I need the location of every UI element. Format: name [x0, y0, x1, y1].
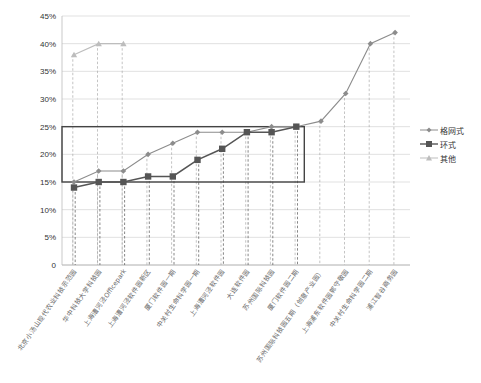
diamond-marker — [269, 124, 275, 130]
square-marker — [71, 184, 77, 190]
y-tick-label: 5% — [44, 233, 56, 242]
y-tick-label: 40% — [40, 40, 56, 49]
y-tick-label: 45% — [40, 12, 56, 21]
legend: 格网式 环式 其他 — [420, 123, 464, 165]
x-tick-label: 上海漕河泾软件园新区 — [105, 267, 153, 330]
series-line-ring — [74, 127, 296, 188]
diamond-marker — [71, 179, 77, 185]
square-marker — [244, 129, 250, 135]
x-tick-label: 中关村生命科学园二期 — [328, 267, 376, 330]
diamond-marker — [195, 129, 201, 135]
diamond-marker — [170, 140, 176, 146]
y-tick-label: 35% — [40, 67, 56, 76]
square-marker — [145, 173, 151, 179]
square-marker — [170, 173, 176, 179]
legend-label: 其他 — [440, 153, 456, 164]
diamond-marker — [96, 168, 102, 174]
square-marker-icon — [420, 139, 438, 149]
diamond-marker — [219, 129, 225, 135]
legend-label: 格网式 — [440, 125, 464, 136]
square-marker — [293, 123, 299, 129]
diamond-marker — [392, 30, 398, 36]
triangle-marker — [71, 52, 77, 58]
x-tick-label: 上海浦东软件园郭守敬园 — [299, 267, 351, 335]
diamond-marker — [368, 41, 374, 47]
square-marker — [194, 157, 200, 163]
square-marker — [219, 146, 225, 152]
square-marker — [96, 179, 102, 185]
y-tick-label: 0 — [52, 261, 57, 270]
y-tick-label: 25% — [40, 123, 56, 132]
legend-item-ring: 环式 — [420, 137, 464, 151]
legend-label: 环式 — [440, 139, 456, 150]
y-tick-label: 20% — [40, 150, 56, 159]
y-tick-label: 30% — [40, 95, 56, 104]
square-marker — [120, 179, 126, 185]
legend-item-other: 其他 — [420, 151, 464, 165]
x-tick-label: 中关村生命科学园一期 — [155, 267, 203, 330]
x-tick-label: 大连软件园 — [224, 267, 251, 301]
y-tick-label: 10% — [40, 206, 56, 215]
line-chart: 05%10%15%20%25%30%35%40%45%北京小汤山现代农业科技示范… — [0, 0, 481, 383]
y-tick-label: 15% — [40, 178, 56, 187]
legend-item-grid: 格网式 — [420, 123, 464, 137]
x-tick-label: 上海漕河泾Officepark — [81, 267, 128, 328]
square-marker — [268, 129, 274, 135]
diamond-marker-icon — [420, 125, 438, 135]
triangle-marker-icon — [420, 153, 438, 163]
